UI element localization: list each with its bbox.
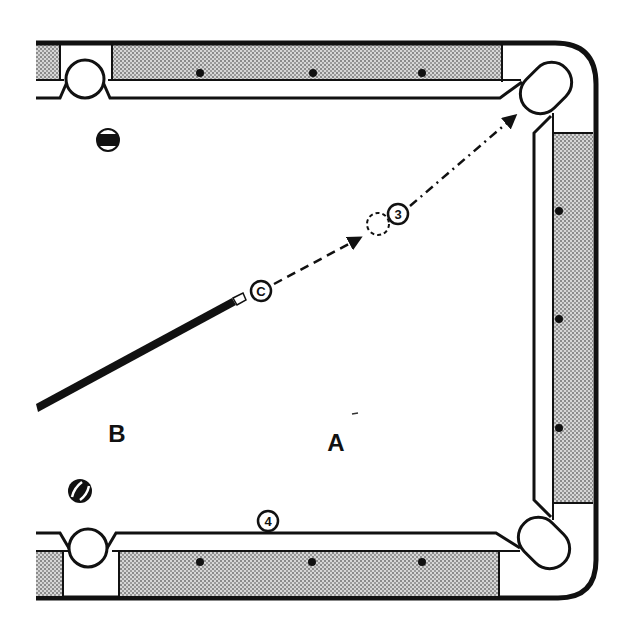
- pool-table-diagram: C 3 4 B A: [0, 0, 629, 637]
- top-rail: [36, 43, 596, 598]
- right-rail: [534, 113, 593, 520]
- stray-mark: [352, 413, 358, 414]
- top-rail-cloth-main: [112, 43, 502, 79]
- cue-ball: C: [251, 281, 271, 301]
- diamond-marker: [555, 315, 563, 323]
- bottom-right-corner-pocket: [510, 509, 578, 577]
- diamond-marker: [196, 69, 204, 77]
- striped-ball-top: [97, 129, 119, 151]
- ball-4-label: 4: [264, 514, 272, 529]
- ball-3-label: 3: [394, 207, 401, 222]
- zone-b-label: B: [108, 420, 125, 447]
- diamond-marker: [196, 558, 204, 566]
- table-outer-edge: [36, 43, 596, 598]
- top-right-corner-pocket: [512, 54, 580, 122]
- diamond-marker: [418, 558, 426, 566]
- object-ball-4: 4: [258, 511, 278, 531]
- ghost-ball: [367, 213, 389, 235]
- cue-ball-label: C: [256, 284, 266, 299]
- cue-ball-path-arrow: [274, 238, 360, 284]
- bottom-rail: [36, 533, 520, 596]
- diamond-marker: [418, 69, 426, 77]
- cue-stick: [36, 293, 246, 412]
- top-rail-cloth-left: [36, 43, 60, 79]
- bottom-rail-cloth-main: [119, 551, 499, 596]
- diamond-marker: [555, 424, 563, 432]
- bottom-rail-cloth-left: [36, 551, 63, 596]
- zone-a-label: A: [327, 429, 344, 456]
- diamond-marker: [309, 69, 317, 77]
- object-ball-path-arrow: [410, 116, 515, 206]
- diamond-marker: [308, 558, 316, 566]
- bottom-side-pocket: [69, 529, 107, 567]
- diamond-marker: [555, 207, 563, 215]
- top-side-pocket: [66, 60, 104, 98]
- striped-ball-bottom: [68, 479, 92, 503]
- object-ball-3: 3: [388, 204, 408, 224]
